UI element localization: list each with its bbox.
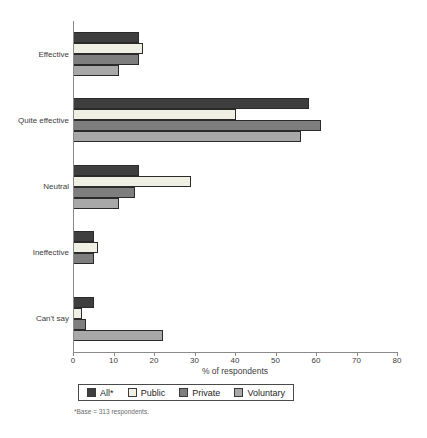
category-label: Can't say (3, 314, 69, 323)
bar (74, 98, 309, 109)
bar (74, 65, 119, 76)
bar (74, 109, 236, 120)
bar (74, 176, 191, 187)
category-row: Effective (74, 21, 398, 87)
category-label: Neutral (3, 182, 69, 191)
axis-tick-label: 40 (231, 356, 240, 365)
axis-tick-label: 80 (393, 356, 402, 365)
category-label: Effective (3, 50, 69, 59)
bar (74, 308, 82, 319)
bar (74, 242, 98, 253)
bar (74, 32, 139, 43)
legend: All*PublicPrivateVoluntary (78, 384, 294, 401)
axis-tick-label: 10 (109, 356, 118, 365)
bar-group (74, 231, 398, 275)
category-label: Quite effective (3, 116, 69, 125)
legend-label: All* (100, 388, 114, 398)
bar (74, 165, 139, 176)
axis-tick-label: 70 (352, 356, 361, 365)
legend-label: Voluntary (247, 388, 285, 398)
category-row: Ineffective (74, 220, 398, 286)
axis-tick-label: 30 (190, 356, 199, 365)
bar (74, 330, 163, 341)
category-label: Ineffective (3, 248, 69, 257)
category-row: Neutral (74, 153, 398, 219)
bar-chart: EffectiveQuite effectiveNeutralIneffecti… (0, 0, 427, 438)
bar (74, 319, 86, 330)
bar-group (74, 165, 398, 209)
bar-group (74, 297, 398, 341)
legend-swatch (234, 388, 243, 397)
bar (74, 231, 94, 242)
legend-swatch (128, 388, 137, 397)
plot-area: EffectiveQuite effectiveNeutralIneffecti… (73, 21, 398, 353)
bar-group (74, 32, 398, 76)
bar (74, 120, 321, 131)
legend-item: Private (179, 388, 220, 398)
bar (74, 43, 143, 54)
category-row: Quite effective (74, 87, 398, 153)
bar (74, 54, 139, 65)
axis-tick-label: 50 (271, 356, 280, 365)
axis-tick-label: 60 (312, 356, 321, 365)
x-axis-title: % of respondents (73, 366, 397, 376)
legend-item: Public (128, 388, 166, 398)
bar (74, 131, 301, 142)
bar (74, 253, 94, 264)
bar (74, 297, 94, 308)
category-row: Can't say (74, 286, 398, 352)
legend-item: All* (87, 388, 114, 398)
footnote: *Base = 313 respondents. (74, 408, 149, 415)
legend-swatch (87, 388, 96, 397)
legend-item: Voluntary (234, 388, 285, 398)
bar-group (74, 98, 398, 142)
legend-label: Public (141, 388, 166, 398)
axis-tick-label: 0 (71, 356, 75, 365)
x-axis: 01020304050607080 (73, 352, 397, 366)
legend-swatch (179, 388, 188, 397)
legend-label: Private (192, 388, 220, 398)
axis-tick-label: 20 (150, 356, 159, 365)
bar (74, 198, 119, 209)
bar (74, 187, 135, 198)
